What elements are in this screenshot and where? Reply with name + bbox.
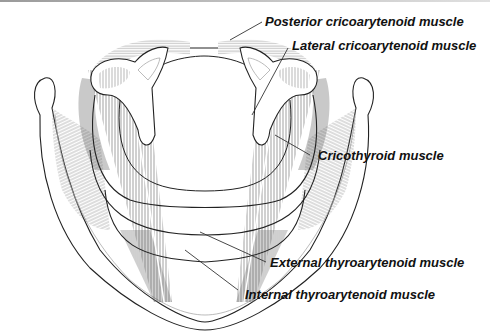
label-cricothyroid: Cricothyroid muscle [318,148,444,163]
label-internal-thyroarytenoid: Internal thyroarytenoid muscle [245,287,435,302]
label-lateral-cricoarytenoid: Lateral cricoarytenoid muscle [292,38,476,53]
leader-internal-thyroarytenoid [185,250,238,290]
larynx-diagram: Posterior cricoarytenoid muscle Lateral … [0,0,490,332]
label-posterior-cricoarytenoid: Posterior cricoarytenoid muscle [265,14,464,29]
leader-posterior-cricoarytenoid [230,22,262,40]
label-external-thyroarytenoid: External thyroarytenoid muscle [270,255,464,270]
